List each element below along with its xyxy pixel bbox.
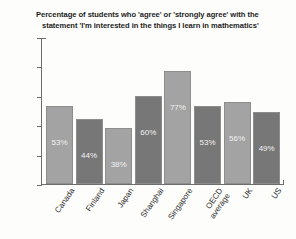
x-label-oecd-average: OECDaverage xyxy=(201,187,232,220)
x-label-canada: Canada xyxy=(54,187,77,215)
bar-value-label: 53% xyxy=(47,138,72,147)
bar-value-label: 49% xyxy=(254,144,279,153)
y-tick-0 xyxy=(37,185,42,186)
x-label-uk: UK xyxy=(241,187,254,201)
x-label-finland: Finland xyxy=(85,187,107,213)
bar-finland: 44% xyxy=(76,119,103,184)
x-label-japan: Japan xyxy=(117,187,136,210)
bar-value-label: 38% xyxy=(106,160,131,169)
bar-canada: 53% xyxy=(46,106,73,184)
plot-area: 020406080100 53%44%38%60%77%53%56%49% xyxy=(41,38,284,185)
x-label-singapore: Singapore xyxy=(167,187,195,222)
x-axis-line xyxy=(41,184,284,185)
bar-value-label: 53% xyxy=(195,138,220,147)
chart-title-line-1: Percentage of students who 'agree' or 's… xyxy=(36,10,294,21)
bar-uk: 56% xyxy=(224,102,251,184)
bar-value-label: 60% xyxy=(136,128,161,137)
bar-us: 49% xyxy=(253,112,280,184)
x-label-shanghai: Shanghai xyxy=(139,187,165,220)
y-tick-60 xyxy=(37,97,42,98)
bar-value-label: 44% xyxy=(77,151,102,160)
bar-chart: Percentage of students who 'agree' or 's… xyxy=(0,0,296,239)
bar-value-label: 77% xyxy=(165,103,190,112)
y-axis-line xyxy=(41,38,42,186)
bar-value-label: 56% xyxy=(225,134,250,143)
bar-singapore: 77% xyxy=(164,71,191,184)
x-label-us: US xyxy=(271,187,284,201)
y-tick-80 xyxy=(37,67,42,68)
bar-shanghai: 60% xyxy=(135,96,162,184)
bar-series: 53%44%38%60%77%53%56%49% xyxy=(46,37,284,184)
chart-title-line-2: statement 'I'm interested in the things … xyxy=(36,21,294,32)
x-axis-category-labels: CanadaFinlandJapanShanghaiSingaporeOECDa… xyxy=(41,187,291,239)
bar-oecd-average: 53% xyxy=(194,106,221,184)
y-tick-40 xyxy=(37,126,42,127)
y-tick-100 xyxy=(37,38,42,39)
y-tick-20 xyxy=(37,156,42,157)
chart-title: Percentage of students who 'agree' or 's… xyxy=(36,10,294,31)
bar-japan: 38% xyxy=(105,128,132,184)
